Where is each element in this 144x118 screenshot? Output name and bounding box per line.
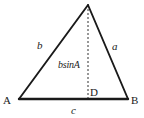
- vertex-label-b: B: [131, 95, 138, 106]
- side-length-label-b: b: [37, 40, 43, 51]
- triangle-side-b-line: [19, 5, 88, 99]
- triangle-side-a-line: [88, 5, 128, 99]
- side-length-label-a: a: [112, 41, 118, 52]
- altitude-length-label: bsinA: [58, 60, 80, 70]
- side-length-label-c: c: [71, 105, 76, 116]
- foot-point-label-d: D: [90, 87, 98, 98]
- vertex-label-a: A: [3, 95, 11, 106]
- geometry-figure: A B D b a c bsinA: [0, 0, 144, 118]
